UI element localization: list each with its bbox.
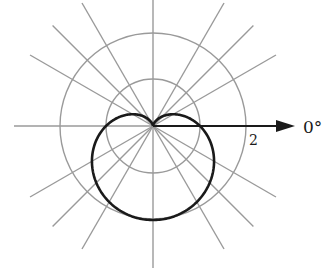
angular-grid-line xyxy=(82,3,153,126)
angular-grid-line xyxy=(153,126,224,249)
polar-plot: 0° 2 xyxy=(0,0,332,272)
angular-grid-line xyxy=(153,126,253,226)
polar-axis-label: 0° xyxy=(303,117,322,137)
angular-grid-lines xyxy=(30,0,276,268)
angular-grid-line xyxy=(82,126,153,249)
arrowhead-icon xyxy=(276,120,295,132)
radius-tick-label: 2 xyxy=(249,132,258,148)
angular-grid-line xyxy=(153,3,224,126)
angular-grid-line xyxy=(53,26,153,126)
angular-grid-line xyxy=(53,126,153,226)
angular-grid-line xyxy=(153,26,253,126)
